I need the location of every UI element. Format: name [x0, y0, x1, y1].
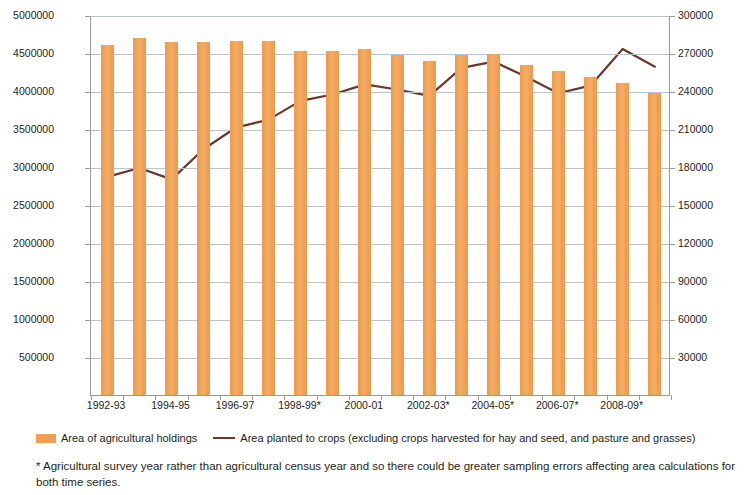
bar-holdings: [423, 61, 436, 395]
y-axis-right-label: 120000: [678, 237, 713, 249]
bar-holdings: [133, 38, 146, 395]
y-axis-right-label: 60000: [678, 313, 707, 325]
x-axis-label: 2006-07*: [536, 399, 579, 411]
x-axis-label: 2004-05*: [471, 399, 514, 411]
bar-holdings: [391, 55, 404, 395]
y-axis-right-label: 150000: [678, 199, 713, 211]
chart-container: Area of agricultural holdings Area plant…: [0, 0, 756, 495]
legend-label-crops: Area planted to crops (excluding crops h…: [240, 432, 695, 444]
y-axis-left-tick: [85, 54, 91, 55]
bar-holdings: [294, 51, 307, 395]
y-axis-left-tick: [85, 16, 91, 17]
y-axis-right-tick: [669, 358, 675, 359]
x-axis-label: 1998-99*: [278, 399, 321, 411]
bar-holdings: [648, 93, 661, 395]
line-path-crops: [107, 49, 655, 179]
y-axis-left-label: 3500000: [13, 123, 54, 135]
x-axis-label: 2008-09*: [600, 399, 643, 411]
y-axis-right-label: 30000: [678, 351, 707, 363]
y-axis-right-label: 270000: [678, 47, 713, 59]
x-axis-label: 1996-97: [216, 399, 255, 411]
bar-holdings: [230, 41, 243, 395]
y-axis-right-tick: [669, 16, 675, 17]
y-axis-left-label: 4500000: [13, 47, 54, 59]
y-axis-right-tick: [669, 244, 675, 245]
y-axis-right-tick: [669, 168, 675, 169]
plot-area: [90, 16, 670, 396]
x-axis-label: 1994-95: [151, 399, 190, 411]
y-axis-left-tick: [85, 130, 91, 131]
bar-holdings: [520, 65, 533, 395]
y-axis-right-tick: [669, 130, 675, 131]
bar-holdings: [197, 42, 210, 395]
y-axis-left-tick: [85, 358, 91, 359]
y-axis-left-label: 1000000: [13, 313, 54, 325]
chart-legend: Area of agricultural holdings Area plant…: [36, 432, 695, 444]
y-axis-left-tick: [85, 206, 91, 207]
y-axis-left-tick: [85, 168, 91, 169]
bar-holdings: [165, 42, 178, 395]
y-axis-left-label: 4000000: [13, 85, 54, 97]
legend-label-holdings: Area of agricultural holdings: [61, 432, 197, 444]
bar-holdings: [101, 45, 114, 395]
y-axis-right-tick: [669, 92, 675, 93]
y-axis-right-tick: [669, 320, 675, 321]
y-axis-left-tick: [85, 92, 91, 93]
y-axis-left-label: 3000000: [13, 161, 54, 173]
chart-footnote: * Agricultural survey year rather than a…: [36, 458, 736, 490]
legend-swatch-bar-icon: [36, 434, 56, 443]
bar-holdings: [487, 54, 500, 395]
y-axis-right-label: 210000: [678, 123, 713, 135]
y-axis-left-label: 2000000: [13, 237, 54, 249]
y-axis-left-tick: [85, 282, 91, 283]
legend-item-holdings: Area of agricultural holdings: [36, 432, 197, 444]
gridline: [91, 16, 669, 17]
bar-holdings: [455, 55, 468, 395]
x-axis-label: 2000-01: [345, 399, 384, 411]
bar-holdings: [326, 51, 339, 395]
y-axis-left-label: 1500000: [13, 275, 54, 287]
bar-holdings: [358, 49, 371, 395]
y-axis-left-label: 5000000: [13, 9, 54, 21]
y-axis-left-tick: [85, 244, 91, 245]
bar-holdings: [262, 41, 275, 395]
y-axis-right-label: 90000: [678, 275, 707, 287]
y-axis-right-tick: [669, 54, 675, 55]
y-axis-right-tick: [669, 206, 675, 207]
y-axis-right-label: 300000: [678, 9, 713, 21]
y-axis-right-label: 180000: [678, 161, 713, 173]
bar-holdings: [552, 71, 565, 395]
legend-item-crops: Area planted to crops (excluding crops h…: [203, 432, 695, 444]
x-axis-tick: [671, 395, 672, 400]
bar-holdings: [584, 77, 597, 395]
bar-holdings: [616, 83, 629, 395]
y-axis-left-label: 500000: [19, 351, 54, 363]
legend-swatch-line-icon: [213, 437, 235, 439]
y-axis-right-tick: [669, 282, 675, 283]
y-axis-left-tick: [85, 320, 91, 321]
x-axis-label: 1992-93: [87, 399, 126, 411]
y-axis-left-label: 2500000: [13, 199, 54, 211]
x-axis-label: 2002-03*: [407, 399, 450, 411]
y-axis-right-label: 240000: [678, 85, 713, 97]
